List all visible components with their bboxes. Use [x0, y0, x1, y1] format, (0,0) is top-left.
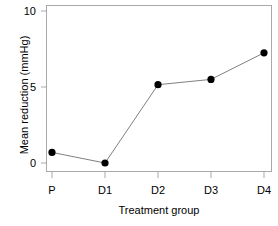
x-axis-ticks — [52, 172, 264, 178]
y-axis-ticks — [41, 11, 46, 163]
plot-canvas — [0, 0, 278, 226]
data-series-line — [52, 53, 264, 163]
chart-figure: Mean reduction (mmHg) Treatment group 0 … — [0, 0, 278, 226]
data-point-p — [48, 149, 55, 156]
data-point-d2 — [154, 81, 161, 88]
data-point-d1 — [101, 159, 108, 166]
data-point-d3 — [207, 76, 214, 83]
data-series-markers — [48, 49, 267, 166]
data-point-d4 — [260, 49, 267, 56]
